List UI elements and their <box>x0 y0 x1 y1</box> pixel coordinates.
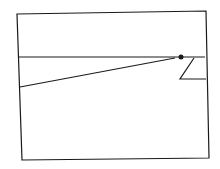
point-marker <box>179 55 184 60</box>
z-shape-line <box>180 58 206 79</box>
outer-frame <box>17 11 209 160</box>
diagram-canvas <box>0 0 220 169</box>
slanted-line <box>20 58 175 87</box>
